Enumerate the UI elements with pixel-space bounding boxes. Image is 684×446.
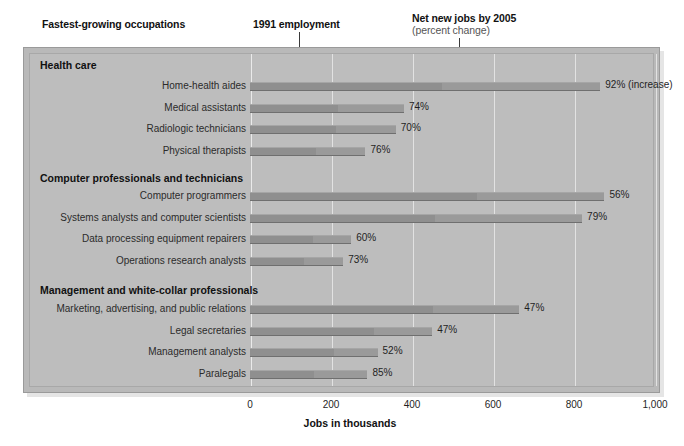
row-label: Legal secretaries <box>170 325 246 336</box>
x-tick-label-0: 0 <box>247 399 253 410</box>
bar-value-label: 56% <box>609 189 629 200</box>
bar <box>250 82 600 91</box>
bar-segment-net-new-jobs <box>304 258 343 265</box>
bar-segment-net-new-jobs <box>316 148 366 155</box>
bar-segment-net-new-jobs <box>433 306 519 313</box>
group-header: Computer professionals and technicians <box>40 172 243 184</box>
bar-segment-net-new-jobs <box>374 328 432 335</box>
bar <box>250 305 519 314</box>
x-tick-label-400: 400 <box>404 399 421 410</box>
x-tick-label-800: 800 <box>566 399 583 410</box>
bar-value-label: 60% <box>356 232 376 243</box>
group-header: Health care <box>40 59 97 71</box>
bar-segment-net-new-jobs <box>336 126 396 133</box>
bar <box>250 348 378 357</box>
bar-value-label: 47% <box>524 302 544 313</box>
bar <box>250 327 432 336</box>
row-label: Physical therapists <box>163 145 246 156</box>
bar <box>250 235 351 244</box>
bar-value-label: 76% <box>370 144 390 155</box>
row-label: Systems analysts and computer scientists <box>60 212 246 223</box>
bar <box>250 147 365 156</box>
row-label: Management analysts <box>148 346 246 357</box>
row-label: Data processing equipment repairers <box>82 233 246 244</box>
bar-segment-net-new-jobs <box>314 371 368 378</box>
x-tick-label-1000: 1,000 <box>642 399 667 410</box>
bar <box>250 370 367 379</box>
group-header: Management and white-collar professional… <box>40 284 258 296</box>
bar-segment-net-new-jobs <box>338 105 404 112</box>
bar-value-label: 47% <box>437 324 457 335</box>
row-label: Medical assistants <box>164 102 246 113</box>
chart-rows: Health careHome-health aides92% (increas… <box>0 0 684 446</box>
bar <box>250 214 582 223</box>
bar-value-label: 70% <box>401 122 421 133</box>
bar-segment-net-new-jobs <box>477 193 605 200</box>
row-label: Radiologic technicians <box>146 123 246 134</box>
x-tick-label-600: 600 <box>485 399 502 410</box>
bar <box>250 104 404 113</box>
row-label: Home-health aides <box>162 80 246 91</box>
row-label: Paralegals <box>199 368 246 379</box>
row-label: Computer programmers <box>140 190 246 201</box>
bar-segment-net-new-jobs <box>334 349 378 356</box>
bar-value-label: 52% <box>383 345 403 356</box>
chart-figure: Fastest-growing occupations 1991 employm… <box>0 0 684 446</box>
bar-value-label: 85% <box>372 367 392 378</box>
bar-value-label: 74% <box>409 101 429 112</box>
bar-segment-net-new-jobs <box>442 83 600 90</box>
x-tick-label-200: 200 <box>323 399 340 410</box>
bar <box>250 257 343 266</box>
bar-value-label: 79% <box>587 211 607 222</box>
bar <box>250 192 604 201</box>
bar-segment-net-new-jobs <box>313 236 351 243</box>
bar <box>250 125 396 134</box>
bar-value-label: 73% <box>348 254 368 265</box>
row-label: Operations research analysts <box>116 255 246 266</box>
bar-value-label: 92% (increase) <box>605 79 672 90</box>
x-axis-title: Jobs in thousands <box>150 417 550 429</box>
bar-segment-net-new-jobs <box>435 215 582 222</box>
row-label: Marketing, advertising, and public relat… <box>56 303 246 314</box>
